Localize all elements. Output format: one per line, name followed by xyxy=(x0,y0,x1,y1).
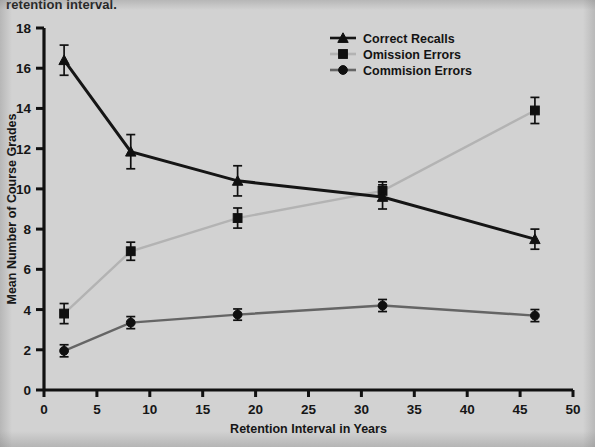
data-point-omission-errors xyxy=(531,106,540,115)
y-tick-label: 16 xyxy=(16,61,32,76)
data-point-commision-errors xyxy=(378,301,387,310)
x-tick-label: 50 xyxy=(565,402,580,417)
data-point-correct-recalls xyxy=(59,55,69,65)
data-point-commision-errors xyxy=(126,318,135,327)
x-tick-label: 25 xyxy=(301,402,317,417)
y-tick-label: 18 xyxy=(16,21,32,36)
legend-circle-marker xyxy=(339,66,348,75)
y-tick-label: 2 xyxy=(23,343,31,358)
figure-panel: retention interval. 05101520253035404550… xyxy=(0,0,595,447)
data-point-omission-errors xyxy=(126,247,135,256)
y-tick-label: 0 xyxy=(23,383,31,398)
x-tick-label: 40 xyxy=(460,402,475,417)
data-point-commision-errors xyxy=(233,310,242,319)
x-tick-label: 35 xyxy=(407,402,423,417)
legend-label: Commision Errors xyxy=(363,64,472,78)
y-tick-label: 4 xyxy=(23,303,31,318)
legend-square-marker xyxy=(339,50,348,59)
y-axis-title: Mean Number of Course Grades xyxy=(5,113,19,304)
x-tick-label: 45 xyxy=(513,402,529,417)
x-tick-label: 0 xyxy=(40,402,48,417)
x-tick-label: 20 xyxy=(248,402,263,417)
y-tick-label: 8 xyxy=(23,222,31,237)
x-tick-label: 10 xyxy=(142,402,157,417)
legend-label: Omission Errors xyxy=(363,48,461,62)
y-tick-label: 6 xyxy=(23,262,31,277)
data-point-commision-errors xyxy=(531,311,540,320)
x-tick-label: 5 xyxy=(93,402,101,417)
data-point-commision-errors xyxy=(60,346,69,355)
x-axis-title: Retention Interval in Years xyxy=(230,422,387,436)
series-line-correct-recalls xyxy=(64,60,535,239)
line-chart: 05101520253035404550024681012141618Reten… xyxy=(0,0,595,447)
series-line-omission-errors xyxy=(64,110,535,313)
x-tick-label: 15 xyxy=(195,402,211,417)
data-point-omission-errors xyxy=(233,214,242,223)
data-point-omission-errors xyxy=(60,309,69,318)
x-tick-label: 30 xyxy=(354,402,369,417)
legend-label: Correct Recalls xyxy=(363,32,455,46)
